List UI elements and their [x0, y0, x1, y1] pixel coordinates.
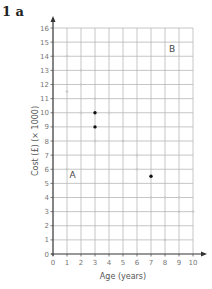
y-tick-label: 7	[45, 152, 49, 160]
faint-data-point	[150, 196, 153, 199]
y-tick-label: 14	[40, 53, 49, 61]
y-axis-arrow-icon	[51, 16, 56, 22]
faint-data-point	[80, 111, 83, 114]
faint-data-point	[108, 111, 111, 114]
y-tick-label: 16	[40, 25, 49, 33]
y-tick-label: 9	[45, 123, 49, 131]
highlighted-data-point	[93, 125, 96, 128]
y-tick-label: 0	[45, 251, 49, 259]
faint-data-point	[164, 238, 167, 241]
faint-data-point	[66, 168, 69, 171]
faint-data-point	[122, 140, 125, 143]
scatter-chart: 012345678910 012345678910111213141516 AB…	[0, 0, 212, 289]
y-tick-label: 3	[45, 208, 49, 216]
x-tick-label: 7	[149, 259, 153, 267]
y-tick-label: 1	[45, 236, 49, 244]
region-label-b: B	[169, 44, 175, 54]
faint-data-point	[164, 196, 167, 199]
x-tick-label: 1	[65, 259, 69, 267]
faint-data-point	[66, 55, 69, 58]
faint-data-point	[178, 196, 181, 199]
y-tick-label: 2	[45, 222, 49, 230]
x-tick-label: 0	[51, 259, 55, 267]
y-tick-label: 13	[40, 67, 49, 75]
faint-data-point	[178, 210, 181, 213]
x-tick-label: 8	[163, 259, 167, 267]
x-tick-label: 9	[177, 259, 181, 267]
x-tick-label: 2	[79, 259, 83, 267]
y-tick-label: 6	[45, 166, 50, 174]
x-tick-label: 10	[189, 259, 198, 267]
faint-data-point	[136, 168, 139, 171]
y-ticks: 012345678910111213141516	[40, 25, 53, 259]
y-tick-label: 10	[40, 109, 49, 117]
x-tick-label: 4	[107, 259, 112, 267]
axes	[51, 16, 208, 257]
y-tick-label: 5	[45, 180, 49, 188]
y-tick-label: 4	[45, 194, 50, 202]
x-axis-title: Age (years)	[100, 272, 146, 281]
faint-data-point	[80, 69, 83, 72]
faint-data-point	[136, 154, 139, 157]
highlighted-data-point	[93, 111, 96, 114]
x-axis-arrow-icon	[201, 252, 207, 257]
x-tick-label: 6	[135, 259, 140, 267]
faint-data-point	[94, 140, 97, 143]
faint-data-point	[94, 97, 97, 100]
faint-data-point	[192, 210, 195, 213]
y-tick-label: 8	[45, 138, 49, 146]
annotations: AB	[70, 44, 176, 180]
faint-data-point	[80, 83, 83, 86]
points	[66, 55, 195, 242]
region-label-a: A	[70, 170, 77, 180]
highlighted-data-point	[149, 175, 152, 178]
y-tick-label: 15	[40, 39, 49, 47]
faint-data-point	[66, 90, 69, 93]
y-axis-title: Cost (£) (× 1000)	[31, 106, 40, 176]
x-ticks: 012345678910	[51, 254, 198, 267]
x-tick-label: 3	[93, 259, 97, 267]
x-tick-label: 5	[121, 259, 125, 267]
y-tick-label: 11	[40, 95, 49, 103]
y-tick-label: 12	[40, 81, 49, 89]
